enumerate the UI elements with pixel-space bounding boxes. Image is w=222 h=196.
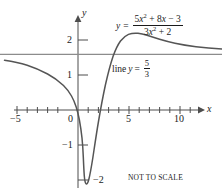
asymptote-numerator: 5 [144, 58, 150, 69]
x-tick-label-minus5: −5 [10, 114, 21, 124]
asymptote-fraction: 5 3 [144, 58, 150, 79]
equation-denominator: 3x2 + 2 [142, 26, 173, 37]
y-tick-label-minus1: −1 [62, 140, 73, 150]
x-tick-label-10: 10 [174, 114, 184, 124]
x-tick-label-0: 0 [68, 114, 73, 124]
x-axis-label: x [207, 104, 211, 114]
graph-figure: y x −5 0 5 10 2 1 −1 −2 y = 5x2 + 8x − 3… [0, 0, 222, 196]
y-tick-label-2: 2 [67, 35, 72, 45]
asymptote-label-var: y [128, 64, 132, 74]
asymptote-label-equals: = [134, 64, 139, 74]
y-axis [75, 15, 82, 188]
equation-fraction: 5x2 + 8x − 3 3x2 + 2 [133, 14, 183, 37]
y-axis-label: y [82, 8, 86, 18]
y-tick-label-1: 1 [67, 70, 72, 80]
x-tick-label-5: 5 [126, 114, 131, 124]
asymptote-label-word: line [112, 64, 126, 74]
curve-equation: y = 5x2 + 8x − 3 3x2 + 2 [116, 14, 183, 37]
equation-lhs: y [116, 21, 120, 31]
asymptote-label: line y = 5 3 [112, 58, 150, 79]
equation-numerator: 5x2 + 8x − 3 [133, 14, 183, 26]
plot-area [0, 0, 222, 196]
not-to-scale-note: NOT TO SCALE [128, 173, 183, 182]
y-tick-label-minus2: −2 [93, 175, 104, 185]
equation-equals: = [123, 21, 128, 31]
asymptote-denominator: 3 [144, 69, 150, 79]
